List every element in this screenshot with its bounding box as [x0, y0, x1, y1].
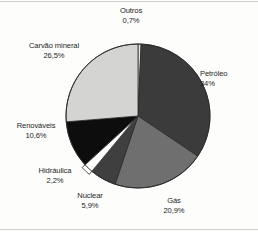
slice-label-renovaveis-value: 10,6%: [3, 131, 69, 141]
slice-label-nuclear-value: 5,9%: [61, 201, 119, 211]
slice-label-hidraulica-name: Hidráulica: [24, 166, 86, 176]
slice-label-outros-value: 0,7%: [95, 16, 167, 26]
slice-label-carvao-mineral-name: Carvão mineral: [14, 41, 94, 51]
slice-label-outros-name: Outros: [95, 6, 167, 16]
slice-label-outros: Outros 0,7%: [95, 6, 167, 25]
slice-label-hidraulica: Hidráulica 2,2%: [24, 166, 86, 185]
slice-label-petroleo-value: 34%: [200, 79, 256, 89]
slice-label-petroleo-name: Petróleo: [200, 69, 256, 79]
pie-chart-graphic: [0, 0, 258, 232]
slice-label-carvao-mineral-value: 26,5%: [14, 51, 94, 61]
slice-label-renovaveis-name: Renováveis: [3, 121, 69, 131]
slice-label-nuclear-name: Nuclear: [61, 191, 119, 201]
slice-label-petroleo: Petróleo 34%: [200, 69, 256, 88]
slice-label-nuclear: Nuclear 5,9%: [61, 191, 119, 210]
slice-label-carvao-mineral: Carvão mineral 26,5%: [14, 41, 94, 60]
slice-label-renovaveis: Renováveis 10,6%: [3, 121, 69, 140]
slice-label-gas: Gás 20,9%: [145, 196, 203, 215]
slice-label-hidraulica-value: 2,2%: [24, 176, 86, 186]
pie-chart-figure: Outros 0,7% Petróleo 34% Gás 20,9% Nucle…: [0, 0, 258, 232]
slice-label-gas-value: 20,9%: [145, 206, 203, 216]
slice-label-gas-name: Gás: [145, 196, 203, 206]
